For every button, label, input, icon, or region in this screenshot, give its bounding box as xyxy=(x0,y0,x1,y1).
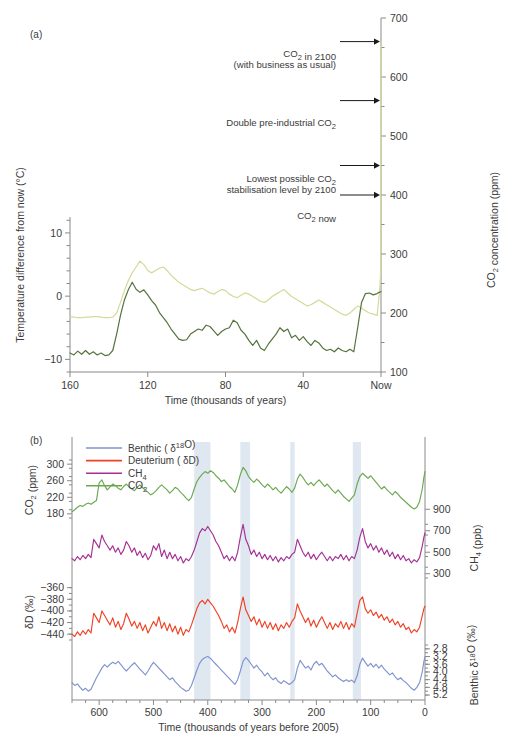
panel-a-left-tick-label: 0 xyxy=(56,290,62,302)
panel-b-x-axis-title: Time (thousands of years before 2005) xyxy=(158,721,339,733)
annotation-arrow-head-double-preindustrial xyxy=(374,97,380,103)
panel-b-dD-tick-label: −360 xyxy=(40,581,64,593)
annotation-text-co2-now: CO2 now xyxy=(297,210,336,224)
panel-a-right-tick-label: 100 xyxy=(390,366,408,378)
figure-container: (a)100200300400500600700−100101601208040… xyxy=(0,0,513,746)
panel-a-x-tick-label: 80 xyxy=(220,379,232,391)
annotation-text-lowest-stabilisation-line2: stabilisation level by 2100 xyxy=(227,184,336,195)
panel-b-dD-tick-label: −400 xyxy=(40,604,64,616)
panel-a-x-tick-label: 160 xyxy=(61,379,79,391)
panel-b-shaded-band-3 xyxy=(353,442,361,700)
panel-b-ch4-tick-label: 500 xyxy=(433,546,451,558)
panel-a-x-tick-label: 120 xyxy=(139,379,157,391)
figure-caption xyxy=(28,735,498,745)
panel-b-co2-tick-label: 300 xyxy=(46,458,64,470)
panel-a-left-axis-title: Temperature difference from now (°C) xyxy=(14,167,26,343)
legend-label-0: Benthic ( δ18O) xyxy=(128,439,195,454)
panel-b-x-tick-label: 600 xyxy=(90,706,108,718)
panel-b-co2-tick-label: 260 xyxy=(46,474,64,486)
panel-a-series-temperature xyxy=(70,282,381,355)
panel-b-benthic-tick-label: 5.2 xyxy=(433,688,448,700)
panel-b-ch4-tick-label: 900 xyxy=(433,503,451,515)
panel-b-co2-tick-label: 180 xyxy=(46,507,64,519)
panel-a-left-tick-label: −10 xyxy=(44,353,62,365)
panel-b-x-tick-label: 500 xyxy=(145,706,163,718)
panel-b-x-tick-label: 0 xyxy=(422,706,428,718)
panel-a-right-tick-label: 400 xyxy=(390,189,408,201)
panel-a-right-tick-label: 600 xyxy=(390,71,408,83)
annotation-arrow-head-co2-now xyxy=(374,192,380,198)
annotation-arrow-head-lowest-stabilisation xyxy=(374,162,380,168)
panel-b-dD-tick-label: −380 xyxy=(40,593,64,605)
annotation-arrow-head-co2-2100 xyxy=(374,38,380,44)
panel-b-co2-tick-label: 220 xyxy=(46,491,64,503)
panel-b-x-tick-label: 200 xyxy=(308,706,326,718)
panel-b-shaded-band-2 xyxy=(290,442,294,700)
legend-label-1: Deuterium ( δD) xyxy=(128,455,199,466)
panel-b-ch4-axis-title: CH4 (ppb) xyxy=(468,525,483,572)
panel-a-left-tick-label: 10 xyxy=(50,227,62,239)
panel-a-right-tick-label: 300 xyxy=(390,248,408,260)
panel-a-label: (a) xyxy=(30,29,42,40)
panel-b-benthic-axis-title: Benthic δ18O (‰) xyxy=(465,625,481,706)
annotation-text-double-preindustrial: Double pre-industrial CO2 xyxy=(226,117,336,131)
panel-a-right-axis-title: CO2 concentration (ppm) xyxy=(485,172,500,288)
panel-b-co2-axis-title: CO2 (ppm) xyxy=(23,465,38,515)
climate-figure-svg: (a)100200300400500600700−100101601208040… xyxy=(0,0,513,746)
panel-a-x-tick-label: Now xyxy=(370,379,391,391)
panel-b-x-tick-label: 400 xyxy=(199,706,217,718)
panel-b-ch4-tick-label: 300 xyxy=(433,567,451,579)
panel-b-dD-tick-label: −420 xyxy=(40,616,64,628)
panel-a-right-tick-label: 500 xyxy=(390,130,408,142)
panel-a-right-tick-label: 700 xyxy=(390,12,408,24)
annotation-text-co2-2100-line2: (with business as usual) xyxy=(234,59,336,70)
panel-b-x-tick-label: 300 xyxy=(253,706,271,718)
panel-b-shaded-band-0 xyxy=(194,442,210,700)
panel-b-ch4-tick-label: 700 xyxy=(433,524,451,536)
panel-b-dD-tick-label: −440 xyxy=(40,628,64,640)
panel-b-x-tick-label: 100 xyxy=(362,706,380,718)
panel-b-label: (b) xyxy=(30,435,42,446)
panel-b-dd-axis-title: δD (‰) xyxy=(23,595,35,629)
panel-a-right-tick-label: 200 xyxy=(390,307,408,319)
panel-a-x-tick-label: 40 xyxy=(297,379,309,391)
legend-label-3: CO2 xyxy=(128,480,147,494)
panel-a-x-axis-title: Time (thousands of years) xyxy=(165,394,287,406)
